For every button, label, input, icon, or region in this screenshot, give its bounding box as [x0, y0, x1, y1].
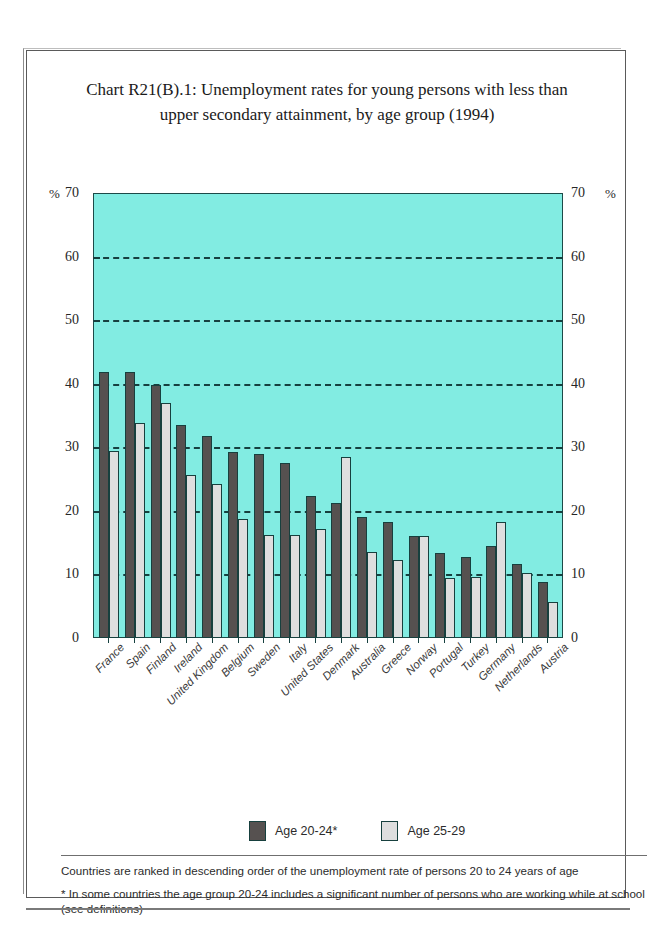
bar-germany-age-25-29 [496, 522, 506, 638]
bar-portugal-age-25-29 [445, 578, 455, 638]
x-tick-17 [547, 638, 548, 643]
y-tick-label-left-20: 20 [49, 503, 79, 519]
chart-legend: Age 20-24*Age 25-29 [197, 821, 517, 841]
y-tick-label-left-50: 50 [49, 312, 79, 328]
bar-sweden-age-25-29 [264, 535, 274, 638]
bar-austria-age-20-24 [538, 582, 548, 638]
bar-italy-age-20-24 [280, 463, 290, 638]
y-tick-label-left-0: 0 [49, 630, 79, 646]
bar-group-denmark [328, 193, 354, 638]
bar-greece-age-20-24 [383, 522, 393, 638]
y-tick-label-left-30: 30 [49, 439, 79, 455]
legend-swatch-age_20_24 [249, 821, 266, 841]
x-tick-1 [134, 638, 135, 643]
bar-belgium-age-25-29 [238, 519, 248, 638]
x-tick-11 [393, 638, 394, 643]
page-bottom-rule [26, 908, 630, 910]
bar-italy-age-25-29 [290, 535, 300, 638]
bar-belgium-age-20-24 [228, 452, 238, 638]
bar-group-australia [354, 193, 380, 638]
page-title: Chart R21(B).1: Unemployment rates for y… [67, 77, 587, 127]
x-tick-2 [160, 638, 161, 643]
y-tick-label-right-40: 40 [571, 376, 601, 392]
bar-ireland-age-20-24 [176, 425, 186, 638]
legend-item-age_20_24[interactable]: Age 20-24* [249, 821, 338, 841]
bar-netherlands-age-25-29 [522, 573, 532, 638]
y-tick-label-left-60: 60 [49, 249, 79, 265]
bar-group-greece [380, 193, 406, 638]
bar-norway-age-25-29 [419, 536, 429, 638]
x-label-france: France [92, 641, 126, 675]
bar-group-finland [148, 193, 174, 638]
percent-symbol-right: % [605, 186, 616, 202]
x-tick-9 [341, 638, 342, 643]
y-tick-label-right-0: 0 [571, 630, 601, 646]
bar-ireland-age-25-29 [186, 475, 196, 638]
y-tick-label-right-30: 30 [571, 439, 601, 455]
x-tick-5 [238, 638, 239, 643]
bar-group-netherlands [509, 193, 535, 638]
x-tick-12 [418, 638, 419, 643]
bar-spain-age-25-29 [135, 423, 145, 639]
bar-greece-age-25-29 [393, 560, 403, 638]
bar-denmark-age-20-24 [331, 503, 341, 638]
legend-swatch-age_25_29 [381, 821, 398, 841]
bar-united-states-age-20-24 [306, 496, 316, 638]
bar-group-sweden [251, 193, 277, 638]
y-tick-label-left-70: 70 [49, 185, 79, 201]
x-tick-14 [470, 638, 471, 643]
bar-turkey-age-25-29 [471, 577, 481, 638]
legend-label-age_20_24: Age 20-24* [275, 824, 338, 838]
bar-group-united-states [303, 193, 329, 638]
bar-australia-age-20-24 [357, 517, 367, 638]
bar-group-austria [535, 193, 561, 638]
bar-series-container [93, 193, 563, 638]
y-tick-label-right-70: 70 [571, 185, 601, 201]
bar-france-age-25-29 [109, 451, 119, 638]
bar-austria-age-25-29 [548, 602, 558, 638]
legend-item-age_25_29[interactable]: Age 25-29 [381, 821, 465, 841]
bar-group-norway [406, 193, 432, 638]
bar-group-turkey [458, 193, 484, 638]
bar-turkey-age-20-24 [461, 557, 471, 638]
bar-france-age-20-24 [99, 372, 109, 638]
bar-germany-age-20-24 [486, 546, 496, 638]
bar-group-united-kingdom [199, 193, 225, 638]
x-tick-3 [186, 638, 187, 643]
bar-group-spain [122, 193, 148, 638]
footnote-divider [61, 855, 647, 856]
bar-finland-age-20-24 [151, 385, 161, 638]
bar-sweden-age-20-24 [254, 454, 264, 638]
y-tick-label-left-10: 10 [49, 566, 79, 582]
x-tick-7 [289, 638, 290, 643]
bar-united-kingdom-age-25-29 [212, 484, 222, 638]
bar-group-portugal [432, 193, 458, 638]
bar-group-ireland [173, 193, 199, 638]
bar-portugal-age-20-24 [435, 553, 445, 638]
bar-finland-age-25-29 [161, 403, 171, 638]
footnote-1: Countries are ranked in descending order… [61, 863, 647, 879]
x-tick-8 [315, 638, 316, 643]
bar-australia-age-25-29 [367, 552, 377, 638]
x-tick-4 [212, 638, 213, 643]
x-tick-6 [263, 638, 264, 643]
bar-group-belgium [225, 193, 251, 638]
chart-page-frame: Chart R21(B).1: Unemployment rates for y… [26, 50, 626, 898]
y-tick-label-right-10: 10 [571, 566, 601, 582]
x-axis-labels: FranceSpainFinlandIrelandUnited KingdomB… [93, 641, 563, 751]
legend-label-age_25_29: Age 25-29 [407, 824, 465, 838]
bar-netherlands-age-20-24 [512, 564, 522, 638]
y-tick-label-right-50: 50 [571, 312, 601, 328]
bar-group-italy [277, 193, 303, 638]
x-tick-15 [496, 638, 497, 643]
footnote-2: * In some countries the age group 20-24 … [61, 886, 647, 917]
y-tick-label-right-20: 20 [571, 503, 601, 519]
plot-wrapper: 707060605050404030302020101000 [93, 193, 563, 638]
y-tick-label-left-40: 40 [49, 376, 79, 392]
x-tick-10 [367, 638, 368, 643]
y-tick-label-right-60: 60 [571, 249, 601, 265]
footnotes: Countries are ranked in descending order… [61, 863, 647, 924]
x-tick-16 [522, 638, 523, 643]
bar-spain-age-20-24 [125, 372, 135, 638]
bar-united-states-age-25-29 [316, 529, 326, 638]
